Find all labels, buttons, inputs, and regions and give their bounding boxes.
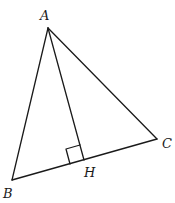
- segment-ac: [48, 28, 157, 139]
- triangle-diagram: A B C H: [0, 0, 175, 203]
- label-b: B: [2, 186, 13, 201]
- label-c: C: [162, 136, 172, 151]
- label-h: H: [83, 165, 96, 180]
- label-a: A: [39, 8, 49, 23]
- segment-ab: [12, 28, 48, 180]
- altitude-ah: [48, 28, 84, 160]
